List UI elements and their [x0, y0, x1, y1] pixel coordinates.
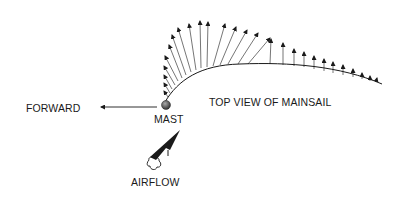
- pressure-arrow-icon: [165, 56, 178, 81]
- pressure-arrow-icon: [178, 28, 191, 72]
- airflow-label: AIRFLOW: [131, 176, 180, 188]
- pressure-arrow-icon: [238, 33, 258, 64]
- diagram-title: TOP VIEW OF MAINSAIL: [209, 96, 331, 108]
- airflow-arrow-icon: [147, 130, 180, 170]
- pressure-arrow-icon: [164, 91, 168, 97]
- pressure-arrow-icon: [200, 21, 201, 68]
- pressure-arrow-icon: [164, 66, 175, 85]
- pressure-arrow-icon: [270, 39, 271, 64]
- pressure-arrow-icon: [189, 24, 196, 70]
- pressure-arrows: [164, 21, 377, 97]
- pressure-arrow-icon: [213, 24, 225, 66]
- pressure-arrow-icon: [172, 35, 186, 75]
- mast-label: MAST: [154, 113, 184, 125]
- pressure-arrow-icon: [169, 45, 182, 78]
- pressure-arrow-icon: [164, 75, 172, 89]
- mainsail-diagram: FORWARD MAST TOP VIEW OF MAINSAIL AIRFLO…: [0, 0, 407, 211]
- pressure-arrow-icon: [207, 22, 208, 67]
- mast-icon: [162, 101, 171, 110]
- pressure-arrow-icon: [228, 30, 247, 64]
- forward-label: FORWARD: [26, 102, 80, 114]
- pressure-arrow-icon: [248, 38, 270, 64]
